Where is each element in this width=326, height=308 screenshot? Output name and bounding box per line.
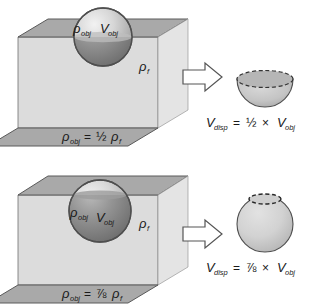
density-eq-lhs: ρ xyxy=(61,129,70,144)
disp-eq-times-2: × xyxy=(262,261,269,275)
disp-eq-fraction: ½ xyxy=(246,116,257,130)
density-eq-fraction: ½ xyxy=(96,130,107,144)
density-eq-operator-2: = xyxy=(84,287,91,301)
buoyancy-figure: ρ obj V obj ρ f ρ obj = ½ ρ f xyxy=(0,0,326,308)
disp-eq-fraction-2: ⅞ xyxy=(246,261,257,275)
displaced-equation-seven-eighths: V disp = ⅞ × V obj xyxy=(206,260,295,277)
sphere-volume-subscript-2: obj xyxy=(104,218,114,227)
sphere-density-subscript-2: obj xyxy=(78,213,88,222)
disp-eq-times: × xyxy=(262,116,269,130)
disp-eq-operator: = xyxy=(233,116,240,130)
displaced-volume-sphere-minus-cap xyxy=(237,194,293,252)
density-eq-operator: = xyxy=(84,130,91,144)
displaced-equation-half: V disp = ½ × V obj xyxy=(206,115,295,132)
disp-eq-lhs-sub-2: disp xyxy=(214,268,228,277)
hemisphere-top-dashed-ellipse xyxy=(237,71,293,88)
displaced-volume-hemisphere xyxy=(237,71,293,108)
disp-eq-operator-2: = xyxy=(233,261,240,275)
density-eq-lhs-sub: obj xyxy=(70,137,80,146)
sphere-density-subscript: obj xyxy=(81,29,91,38)
case-half-submerged: ρ obj V obj ρ f ρ obj = ½ ρ f xyxy=(0,8,295,146)
disp-eq-rhs-sub: obj xyxy=(285,123,295,132)
fluid-density-symbol-2: ρ xyxy=(138,216,147,231)
density-eq-rhs-2: ρ xyxy=(111,286,120,301)
fluid-density-symbol: ρ xyxy=(138,59,147,74)
density-eq-rhs: ρ xyxy=(110,129,119,144)
disp-eq-lhs-sub: disp xyxy=(214,123,228,132)
density-eq-lhs-2: ρ xyxy=(61,286,70,301)
cap-dashed-ellipse xyxy=(249,194,281,204)
density-eq-fraction-2: ⅞ xyxy=(96,287,107,301)
implies-arrow-icon xyxy=(183,63,222,91)
figure-canvas: ρ obj V obj ρ f ρ obj = ½ ρ f xyxy=(0,0,326,308)
density-eq-lhs-sub-2: obj xyxy=(70,294,80,303)
case-seven-eighths-submerged: ρ obj V obj ρ f ρ obj = ⅞ ρ f V di xyxy=(0,176,295,303)
sphere-density-symbol: ρ xyxy=(72,21,81,36)
sphere-density-symbol-2: ρ xyxy=(69,205,78,220)
sphere-waterline-ellipse-2 xyxy=(74,190,127,199)
implies-arrow-icon-2 xyxy=(183,220,222,248)
sphere-volume-subscript: obj xyxy=(108,29,118,38)
disp-eq-rhs-sub-2: obj xyxy=(285,268,295,277)
sphere-minus-cap-body xyxy=(237,196,293,252)
